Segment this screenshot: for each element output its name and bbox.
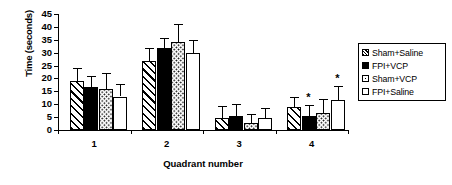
bar-chart-figure: Time (seconds) 051015202530354045 ** 123… — [0, 0, 452, 185]
bar — [302, 116, 316, 130]
error-bar-cap — [160, 38, 169, 39]
error-bar-cap — [247, 114, 256, 115]
plot-area: 051015202530354045 ** 1234 — [58, 14, 348, 130]
error-bar — [120, 84, 121, 97]
error-bar — [91, 76, 92, 86]
x-axis-category-label: 2 — [164, 138, 169, 149]
error-bar-cap — [218, 106, 227, 107]
x-axis-category-label: 3 — [237, 138, 242, 149]
error-bar-cap — [73, 68, 82, 69]
x-axis-tick — [276, 130, 277, 134]
error-bar-cap — [232, 104, 241, 105]
bar — [316, 113, 330, 130]
error-bar-cap — [87, 76, 96, 77]
x-axis-tick — [131, 130, 132, 134]
bar — [258, 118, 272, 130]
x-axis-category-label: 1 — [92, 138, 97, 149]
error-bar — [323, 99, 324, 113]
y-axis-tick: 15 — [54, 91, 58, 92]
y-axis-tick-label: 25 — [41, 60, 52, 71]
error-bar — [77, 68, 78, 81]
error-bar-cap — [174, 24, 183, 25]
y-axis-line — [58, 14, 59, 130]
legend-swatch-icon — [362, 88, 369, 95]
x-axis-tick — [348, 130, 349, 134]
bar — [99, 89, 113, 130]
error-bar-cap — [102, 73, 111, 74]
y-axis-tick-label: 5 — [47, 111, 52, 122]
error-bar-cap — [305, 105, 314, 106]
bar — [331, 100, 345, 130]
bar — [157, 48, 171, 130]
error-bar-cap — [290, 97, 299, 98]
legend-item-label: Sham+Saline — [372, 48, 423, 58]
y-axis-tick-label: 45 — [41, 8, 52, 19]
error-bar — [265, 108, 266, 118]
bar — [215, 118, 229, 130]
error-bar — [164, 38, 165, 48]
bar — [186, 53, 200, 130]
error-bar — [178, 24, 179, 42]
y-axis-tick: 25 — [54, 66, 58, 67]
y-axis-tick-label: 35 — [41, 34, 52, 45]
y-axis-tick-label: 40 — [41, 21, 52, 32]
y-axis-title: Time (seconds) — [23, 0, 34, 104]
legend-item: Sham+Saline — [362, 46, 443, 59]
legend-item-label: FPI+Saline — [372, 87, 414, 97]
bar — [229, 116, 243, 130]
error-bar-cap — [261, 108, 270, 109]
y-axis-tick: 40 — [54, 27, 58, 28]
y-axis-tick-label: 10 — [41, 98, 52, 109]
x-axis-tick — [58, 130, 59, 134]
error-bar — [106, 73, 107, 88]
bar — [84, 87, 98, 130]
y-axis-tick: 10 — [54, 104, 58, 105]
y-axis-tick: 5 — [54, 117, 58, 118]
error-bar-cap — [145, 48, 154, 49]
significance-asterisk: * — [306, 93, 310, 101]
legend-item: Sham+VCP — [362, 72, 443, 85]
legend-swatch-icon — [362, 49, 369, 56]
legend-item-label: Sham+VCP — [372, 74, 417, 84]
legend-item: FPI+Saline — [362, 85, 443, 98]
error-bar — [193, 40, 194, 53]
bar — [171, 42, 185, 130]
y-axis-tick-label: 20 — [41, 72, 52, 83]
error-bar — [309, 105, 310, 115]
error-bar — [149, 48, 150, 61]
bar — [113, 97, 127, 131]
error-bar — [222, 106, 223, 118]
y-axis-tick-label: 15 — [41, 85, 52, 96]
legend-swatch-icon — [362, 62, 369, 69]
error-bar-cap — [116, 84, 125, 85]
error-bar — [294, 97, 295, 107]
y-axis-tick: 35 — [54, 40, 58, 41]
legend-item: FPI+VCP — [362, 59, 443, 72]
chart-legend: Sham+SalineFPI+VCPSham+VCPFPI+Saline — [358, 43, 446, 101]
y-axis-tick-label: 0 — [47, 124, 52, 135]
error-bar-cap — [189, 40, 198, 41]
y-axis-tick-label: 30 — [41, 47, 52, 58]
error-bar — [251, 114, 252, 123]
y-axis-tick: 20 — [54, 78, 58, 79]
bar — [287, 107, 301, 130]
error-bar — [338, 86, 339, 100]
error-bar-cap — [334, 86, 343, 87]
x-axis-category-label: 4 — [309, 138, 314, 149]
error-bar — [236, 104, 237, 116]
error-bar-cap — [319, 99, 328, 100]
y-axis-tick: 30 — [54, 53, 58, 54]
significance-asterisk: * — [335, 74, 339, 82]
x-axis-title: Quadrant number — [58, 158, 348, 169]
bar — [244, 123, 258, 130]
x-axis-tick — [203, 130, 204, 134]
bar — [70, 81, 84, 130]
legend-swatch-icon — [362, 75, 369, 82]
y-axis-tick: 45 — [54, 14, 58, 15]
bar — [142, 61, 156, 130]
legend-item-label: FPI+VCP — [372, 61, 408, 71]
